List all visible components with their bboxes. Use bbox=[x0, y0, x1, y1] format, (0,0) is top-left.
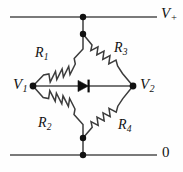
node-bridge-right bbox=[130, 83, 137, 90]
label-v2-symbol: V bbox=[140, 76, 149, 92]
label-r3-symbol: R bbox=[114, 40, 123, 55]
node-top-rail bbox=[80, 14, 86, 20]
label-r2-subscript: 2 bbox=[47, 122, 52, 132]
label-r1: R1 bbox=[35, 46, 49, 62]
label-v-plus-subscript: + bbox=[170, 12, 177, 23]
circuit-diagram: V+ V1 V2 0 R1 R3 R2 R4 bbox=[0, 0, 183, 172]
label-v1-symbol: V bbox=[13, 76, 22, 92]
node-bottom-rail bbox=[80, 152, 86, 158]
node-bridge-bottom bbox=[80, 135, 86, 141]
label-v1: V1 bbox=[13, 77, 28, 94]
label-ground: 0 bbox=[162, 145, 170, 160]
label-v-plus-symbol: V bbox=[161, 5, 170, 21]
node-bridge-left bbox=[30, 83, 37, 90]
diode-icon bbox=[78, 80, 89, 93]
label-r2-symbol: R bbox=[38, 115, 47, 130]
label-r4: R4 bbox=[118, 118, 132, 134]
label-v1-subscript: 1 bbox=[22, 83, 27, 94]
label-r4-symbol: R bbox=[118, 117, 127, 132]
label-r3: R3 bbox=[114, 41, 128, 57]
node-bridge-top bbox=[80, 31, 86, 37]
label-r1-symbol: R bbox=[35, 45, 44, 60]
label-ground-symbol: 0 bbox=[162, 144, 170, 160]
label-r2: R2 bbox=[38, 116, 52, 132]
label-r1-subscript: 1 bbox=[44, 52, 49, 62]
label-v2: V2 bbox=[140, 77, 155, 94]
label-r3-subscript: 3 bbox=[123, 47, 128, 57]
label-v-plus: V+ bbox=[161, 6, 177, 23]
label-v2-subscript: 2 bbox=[149, 83, 154, 94]
diode-triangle bbox=[78, 80, 88, 91]
label-r4-subscript: 4 bbox=[127, 124, 132, 134]
